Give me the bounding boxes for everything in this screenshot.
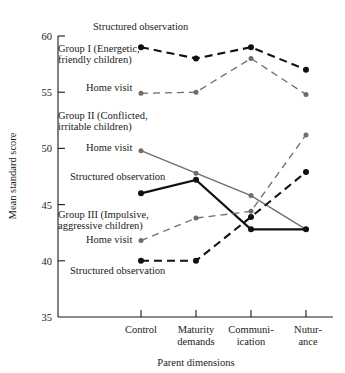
y-tick-60: 60: [42, 31, 66, 42]
data-point: [303, 67, 309, 73]
y-axis-title: Mean standard score: [7, 132, 18, 219]
ann-g1-home: Home visit: [86, 82, 132, 93]
ann-group-1-line2: friendly children): [58, 54, 132, 66]
data-point: [139, 148, 144, 153]
series-line: [141, 151, 306, 230]
series-3: [139, 148, 309, 232]
line-chart-svg: 60 55 50 45 40 35: [0, 0, 345, 373]
data-point: [249, 193, 254, 198]
data-point: [248, 214, 254, 220]
y-tick-label: 35: [42, 312, 53, 323]
x-tick-label-nurturance-line1: Nutur-: [294, 324, 322, 335]
y-tick-50: 50: [42, 143, 66, 154]
ann-g3-home: Home visit: [86, 234, 132, 245]
y-tick-label: 55: [42, 87, 53, 98]
data-point: [249, 209, 254, 214]
y-tick-label: 45: [42, 200, 53, 211]
series-line: [141, 47, 306, 69]
data-point: [139, 91, 144, 96]
y-tick-40: 40: [42, 256, 66, 267]
data-point: [193, 55, 199, 61]
x-tick-label-communication-line2: ication: [237, 336, 266, 347]
series-line: [141, 58, 306, 94]
ann-g1-structured: Structured observation: [93, 21, 189, 32]
y-tick-label: 50: [42, 143, 53, 154]
data-point: [194, 216, 199, 221]
ann-g3-structured: Structured observation: [70, 265, 166, 276]
series-1: [138, 44, 309, 72]
data-point: [138, 258, 144, 264]
x-tick-label-maturity-line1: Maturity: [178, 324, 215, 335]
series-line: [141, 172, 306, 261]
x-tick-label-maturity-line2: demands: [177, 336, 214, 347]
series-4: [138, 177, 309, 232]
ann-g2-structured: Structured observation: [70, 171, 166, 182]
data-point: [194, 171, 199, 176]
y-ticks: 60 55 50 45 40 35: [42, 31, 66, 323]
chart-figure: 60 55 50 45 40 35: [0, 0, 345, 373]
x-tick-label-communication-line1: Communi-: [228, 324, 274, 335]
y-tick-label: 40: [42, 256, 53, 267]
series-2: [139, 56, 309, 97]
data-point: [304, 92, 309, 97]
ann-group-3-line2: aggressive children): [58, 220, 143, 232]
data-point: [304, 132, 309, 137]
ann-g2-home: Home visit: [86, 142, 132, 153]
x-axis-title: Parent dimensions: [157, 357, 234, 368]
data-point: [303, 169, 309, 175]
series-layer: [138, 44, 309, 264]
data-point: [139, 238, 144, 243]
annotation-layer: Structured observationGroup I (Energetic…: [58, 21, 189, 276]
series-6: [138, 169, 309, 264]
ann-group-2-line2: irritable children): [58, 121, 132, 133]
x-tick-label-control: Control: [125, 324, 157, 335]
x-ticks: Control Maturity demands Communi- icatio…: [125, 310, 322, 347]
y-tick-55: 55: [42, 87, 66, 98]
y-tick-35: 35: [42, 312, 53, 323]
data-point: [194, 90, 199, 95]
y-tick-label: 60: [42, 31, 53, 42]
data-point: [248, 44, 254, 50]
data-point: [193, 177, 199, 183]
data-point: [303, 226, 309, 232]
series-line: [141, 180, 306, 229]
data-point: [249, 56, 254, 61]
data-point: [138, 190, 144, 196]
x-tick-label-nurturance-line2: ance: [298, 336, 318, 347]
data-point: [193, 258, 199, 264]
data-point: [248, 226, 254, 232]
